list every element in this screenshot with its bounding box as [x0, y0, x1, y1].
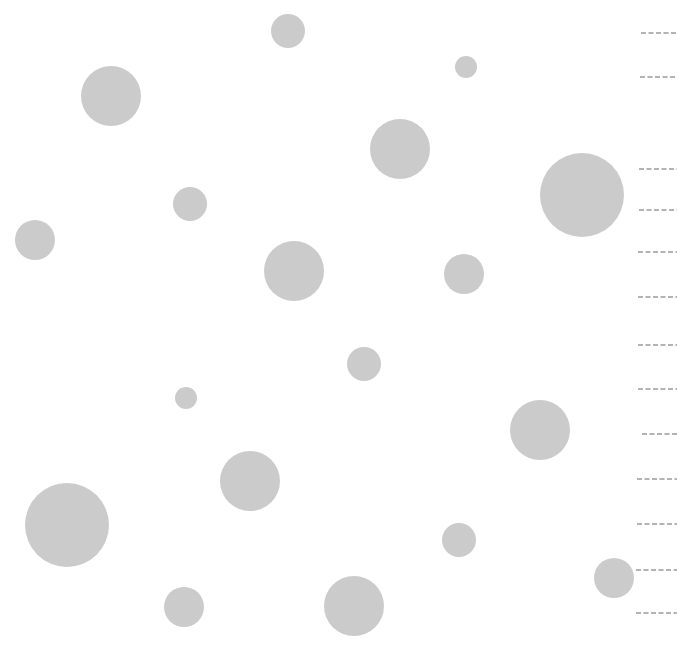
gray-circle: [164, 587, 204, 627]
gray-circle: [264, 241, 324, 301]
circle-pattern: [0, 0, 677, 645]
gray-circle: [442, 523, 476, 557]
gray-circle: [510, 400, 570, 460]
gray-circle: [455, 56, 477, 78]
gray-circle: [25, 483, 109, 567]
gray-circle: [540, 153, 624, 237]
dashed-lines-group: [636, 33, 677, 613]
gray-circle: [594, 558, 634, 598]
gray-circle: [81, 66, 141, 126]
gray-circle: [175, 387, 197, 409]
gray-circle: [15, 220, 55, 260]
gray-circle: [173, 187, 207, 221]
circles-group: [15, 14, 634, 636]
gray-circle: [220, 451, 280, 511]
gray-circle: [444, 254, 484, 294]
gray-circle: [324, 576, 384, 636]
decorative-canvas: [0, 0, 677, 645]
gray-circle: [271, 14, 305, 48]
gray-circle: [370, 119, 430, 179]
gray-circle: [347, 347, 381, 381]
